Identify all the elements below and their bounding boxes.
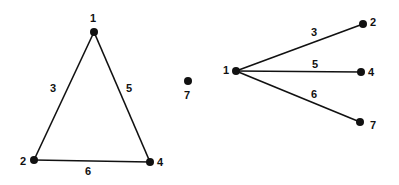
node-7-dot [356,118,364,126]
edge-weight-label: 6 [311,88,317,100]
node-2-dot [30,156,38,164]
edge-weight-label: 6 [85,165,91,177]
edge-1-2 [34,32,94,160]
node-2-dot [359,20,367,28]
node-label: 4 [157,156,164,168]
node-4-dot [357,68,365,76]
edge-1-4 [94,32,150,162]
node-4-dot [146,158,154,166]
node-7-dot [184,77,192,85]
graph-diagram: 35612473561247 [0,0,399,185]
node-label: 1 [90,12,96,24]
edge-1-7 [236,71,360,122]
node-label: 4 [368,66,375,78]
node-label: 2 [370,16,376,28]
right-graph: 3561247 [223,16,376,131]
node-1-dot [90,28,98,36]
node-1-dot [232,67,240,75]
edge-weight-label: 3 [311,26,317,38]
node-label: 2 [20,155,26,167]
node-label: 7 [370,119,376,131]
edge-weight-label: 5 [126,82,132,94]
left-graph: 3561247 [20,12,192,177]
edge-weight-label: 3 [50,82,56,94]
node-label: 7 [184,89,190,101]
edge-2-4 [34,160,150,162]
edge-weight-label: 5 [312,58,318,70]
edge-1-4 [236,71,361,72]
edge-1-2 [236,24,363,71]
node-label: 1 [223,64,229,76]
